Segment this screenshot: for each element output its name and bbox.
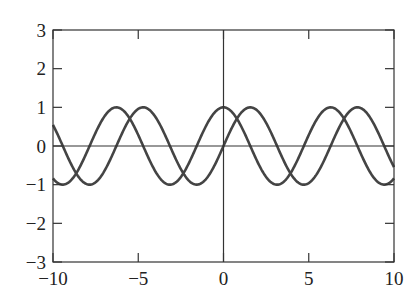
line-chart: −10−50510 −3−2−10123 [0,0,420,303]
x-axis-tick-labels: −10−50510 [38,268,403,289]
y-tick-label: −3 [26,252,46,273]
x-tick-label: 5 [304,268,314,289]
y-tick-label: −1 [26,174,46,195]
y-tick-label: 3 [37,20,47,41]
x-tick-label: −5 [128,268,148,289]
x-tick-label: 10 [385,268,404,289]
reference-lines [53,30,394,262]
y-axis-tick-labels: −3−2−10123 [26,20,46,273]
y-tick-label: 2 [37,58,47,79]
y-tick-label: −2 [26,213,46,234]
y-tick-label: 1 [37,97,47,118]
y-tick-label: 0 [37,136,47,157]
x-tick-label: 0 [219,268,229,289]
